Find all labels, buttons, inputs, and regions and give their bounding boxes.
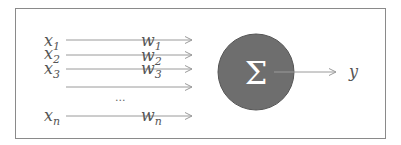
sigma-symbol: Σ [245,54,268,92]
output-label: y [348,62,359,81]
diagram-frame [16,9,386,139]
ellipsis: ... [115,91,126,104]
perceptron-diagram: x1 x2 x3 xn w1 w2 w3 wn ... Σ y [0,0,401,145]
